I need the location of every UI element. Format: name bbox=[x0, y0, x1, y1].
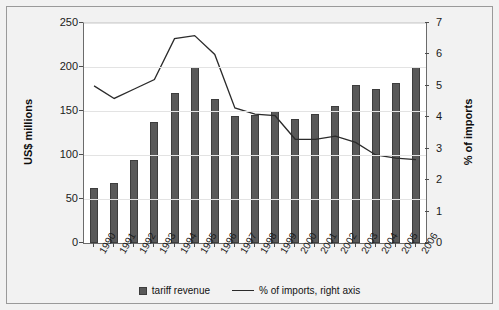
y-tick-label-right: 5 bbox=[436, 79, 442, 91]
x-tick-label: 2002 bbox=[338, 250, 348, 256]
legend-line-swatch-icon bbox=[232, 290, 254, 291]
y-tick-mark-right bbox=[425, 211, 429, 212]
legend-label-percent-of-imports: % of imports, right axis bbox=[259, 285, 360, 296]
x-tick-label: 1997 bbox=[238, 250, 248, 256]
gridline bbox=[84, 155, 426, 156]
x-tick-mark bbox=[153, 243, 154, 247]
x-tick-mark bbox=[334, 243, 335, 247]
x-tick-label: 2004 bbox=[379, 250, 389, 256]
gridline bbox=[84, 23, 426, 24]
x-tick-mark bbox=[274, 243, 275, 247]
x-tick-label: 1990 bbox=[97, 250, 107, 256]
x-tick-label: 1991 bbox=[117, 250, 127, 256]
y-tick-label-right: 2 bbox=[436, 173, 442, 185]
x-tick-mark bbox=[415, 243, 416, 247]
plot-area bbox=[83, 22, 427, 244]
x-tick-label: 2005 bbox=[399, 250, 409, 256]
y-tick-label-left: 100 bbox=[60, 148, 78, 160]
y-tick-label-right: 6 bbox=[436, 47, 442, 59]
y-axis-right: 01234567 bbox=[428, 22, 458, 242]
x-tick-mark bbox=[93, 243, 94, 247]
y-tick-label-left: 50 bbox=[66, 192, 78, 204]
y-tick-label-left: 200 bbox=[60, 60, 78, 72]
y-tick-mark-right bbox=[425, 22, 429, 23]
y-tick-label-left: 150 bbox=[60, 104, 78, 116]
y-axis-left: 050100150200250 bbox=[48, 22, 78, 242]
x-tick-mark bbox=[254, 243, 255, 247]
chart-figure: US$ millions % of imports 05010015020025… bbox=[0, 0, 499, 310]
y-tick-mark-left bbox=[79, 154, 83, 155]
x-tick-mark bbox=[234, 243, 235, 247]
y-tick-mark-left bbox=[79, 242, 83, 243]
x-tick-label: 1992 bbox=[137, 250, 147, 256]
x-tick-label: 1993 bbox=[157, 250, 167, 256]
y-axis-title-left: US$ millions bbox=[22, 99, 34, 165]
line-path bbox=[94, 36, 416, 160]
x-tick-mark bbox=[194, 243, 195, 247]
y-tick-mark-left bbox=[79, 198, 83, 199]
y-tick-label-left: 250 bbox=[60, 16, 78, 28]
y-tick-label-right: 1 bbox=[436, 205, 442, 217]
y-tick-label-right: 3 bbox=[436, 142, 442, 154]
y-tick-mark-right bbox=[425, 53, 429, 54]
y-tick-label-left: 0 bbox=[72, 236, 78, 248]
x-axis-labels: 1990199119921993199419951996199719981999… bbox=[83, 243, 427, 287]
x-tick-mark bbox=[314, 243, 315, 247]
line-series-percent-of-imports bbox=[84, 23, 426, 243]
x-tick-mark bbox=[113, 243, 114, 247]
x-tick-label: 1996 bbox=[218, 250, 228, 256]
x-tick-label: 2003 bbox=[359, 250, 369, 256]
x-tick-label: 1999 bbox=[278, 250, 288, 256]
x-tick-label: 2001 bbox=[318, 250, 328, 256]
y-axis-title-right: % of imports bbox=[462, 99, 474, 166]
gridline bbox=[84, 199, 426, 200]
x-tick-label: 1998 bbox=[258, 250, 268, 256]
y-tick-mark-right bbox=[425, 85, 429, 86]
y-tick-mark-right bbox=[425, 242, 429, 243]
x-tick-label: 1994 bbox=[178, 250, 188, 256]
y-tick-label-right: 7 bbox=[436, 16, 442, 28]
x-tick-mark bbox=[355, 243, 356, 247]
x-tick-mark bbox=[214, 243, 215, 247]
x-tick-mark bbox=[395, 243, 396, 247]
x-tick-label: 2000 bbox=[298, 250, 308, 256]
y-tick-mark-left bbox=[79, 66, 83, 67]
x-tick-mark bbox=[174, 243, 175, 247]
y-tick-mark-right bbox=[425, 116, 429, 117]
legend-label-tariff-revenue: tariff revenue bbox=[152, 285, 210, 296]
x-tick-label: 2006 bbox=[419, 250, 429, 256]
legend-bar-swatch-icon bbox=[139, 287, 147, 295]
y-tick-mark-right bbox=[425, 148, 429, 149]
chart-legend: tariff revenue % of imports, right axis bbox=[0, 285, 499, 296]
y-tick-mark-left bbox=[79, 22, 83, 23]
y-tick-label-right: 4 bbox=[436, 110, 442, 122]
gridline bbox=[84, 67, 426, 68]
y-tick-mark-left bbox=[79, 110, 83, 111]
x-tick-mark bbox=[294, 243, 295, 247]
legend-item-tariff-revenue: tariff revenue bbox=[139, 285, 210, 296]
x-tick-mark bbox=[133, 243, 134, 247]
y-tick-mark-right bbox=[425, 179, 429, 180]
legend-item-percent-of-imports: % of imports, right axis bbox=[232, 285, 360, 296]
gridline bbox=[84, 111, 426, 112]
x-tick-mark bbox=[375, 243, 376, 247]
x-tick-label: 1995 bbox=[198, 250, 208, 256]
